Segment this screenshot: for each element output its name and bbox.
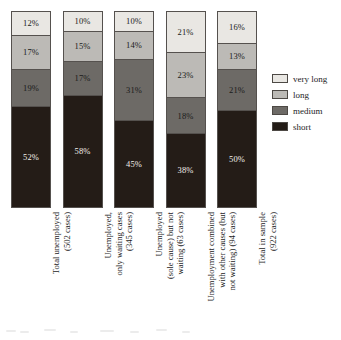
category-label-text: Unemployment combined with other causes … [206, 212, 238, 302]
bar-segment-value-label: 15% [75, 42, 91, 51]
bar-segment: 18% [167, 98, 205, 134]
bar-segment: 14% [115, 32, 153, 60]
bar-segment-value-label: 45% [126, 160, 142, 169]
bar-segment: 13% [218, 44, 256, 70]
category-axis-labels: Total unemployed (502 cases)Unemployed, … [11, 212, 258, 334]
bar-segment-value-label: 10% [75, 17, 91, 26]
category-label: Unemployed, only waiting cases (345 case… [103, 212, 147, 330]
bar-segment: 10% [64, 12, 102, 32]
bar-segment: 16% [218, 12, 256, 44]
bar-segment-value-label: 12% [23, 19, 39, 28]
scan-speckle [156, 329, 167, 331]
legend-label: medium [293, 106, 323, 116]
scan-speckle [6, 330, 16, 332]
bar-column: 10%15%17%58% [63, 11, 103, 208]
bar-segment-value-label: 17% [23, 48, 39, 57]
bar-segment: 10% [115, 12, 153, 32]
bar-segment: 58% [64, 96, 102, 207]
bar-segment: 31% [115, 60, 153, 121]
bar-segment-value-label: 52% [23, 153, 39, 162]
bar-segment: 45% [115, 121, 153, 207]
scan-speckle [130, 331, 139, 333]
legend-swatch [272, 90, 288, 99]
legend-item: long [272, 87, 340, 102]
scan-speckle [20, 331, 29, 333]
chart-legend: very longlongmediumshort [272, 71, 340, 135]
stacked-bar-chart: 12%17%19%52%10%15%17%58%10%14%31%45%21%2… [0, 0, 341, 340]
bar-column: 16%13%21%50% [217, 11, 257, 208]
bar-segment: 23% [167, 53, 205, 98]
bar-segment-value-label: 18% [178, 112, 194, 121]
bar-segment: 15% [64, 32, 102, 62]
category-label-text: Total in sample (922 cases) [257, 212, 278, 265]
bar-segment: 21% [167, 12, 205, 53]
category-label-text: Total unemployed (502 cases) [51, 212, 72, 274]
category-label: Unemployment combined with other causes … [206, 212, 250, 330]
bar-segment-value-label: 17% [75, 74, 91, 83]
category-label: Total unemployed (502 cases) [51, 212, 95, 330]
category-label-text: Unemployed (sole cause) but not waiting … [154, 212, 186, 279]
legend-swatch [272, 74, 288, 83]
bar-segment-value-label: 19% [23, 84, 39, 93]
bar-segment-value-label: 14% [126, 41, 142, 50]
category-label: Unemployed (sole cause) but not waiting … [154, 212, 198, 330]
bar-segment: 17% [12, 36, 50, 70]
bar-segment: 12% [12, 12, 50, 36]
bar-column: 21%23%18%38% [166, 11, 206, 208]
scan-speckle [182, 331, 190, 333]
scan-speckle [70, 331, 78, 333]
bar-column: 12%17%19%52% [11, 11, 51, 208]
bar-segment-value-label: 16% [229, 23, 245, 32]
scan-speckle [100, 330, 114, 332]
legend-swatch [272, 122, 288, 131]
bar-segment-value-label: 10% [126, 17, 142, 26]
bar-segment-value-label: 50% [229, 155, 245, 164]
legend-label: long [293, 90, 309, 100]
bar-segment-value-label: 21% [229, 86, 245, 95]
legend-label: short [293, 122, 311, 132]
bar-segment: 17% [64, 62, 102, 96]
bar-segment: 21% [218, 70, 256, 111]
bar-column: 10%14%31%45% [114, 11, 154, 208]
scan-artifact [4, 326, 204, 334]
legend-item: medium [272, 103, 340, 118]
bar-segment-value-label: 58% [75, 147, 91, 156]
bar-segment: 52% [12, 107, 50, 207]
bar-segment-value-label: 21% [178, 28, 194, 37]
plot-area: 12%17%19%52%10%15%17%58%10%14%31%45%21%2… [11, 11, 258, 208]
category-label: Total in sample (922 cases) [257, 212, 301, 330]
legend-swatch [272, 106, 288, 115]
legend-item: short [272, 119, 340, 134]
legend-item: very long [272, 71, 340, 86]
bar-segment: 38% [167, 134, 205, 207]
bar-segment: 50% [218, 111, 256, 207]
bar-segment-value-label: 31% [126, 86, 142, 95]
scan-speckle [44, 329, 56, 331]
category-label-text: Unemployed, only waiting cases (345 case… [103, 212, 135, 275]
bar-segment-value-label: 38% [178, 166, 194, 175]
legend-label: very long [293, 74, 327, 84]
bar-segment-value-label: 13% [229, 52, 245, 61]
bar-segment-value-label: 23% [178, 71, 194, 80]
bar-segment: 19% [12, 70, 50, 107]
